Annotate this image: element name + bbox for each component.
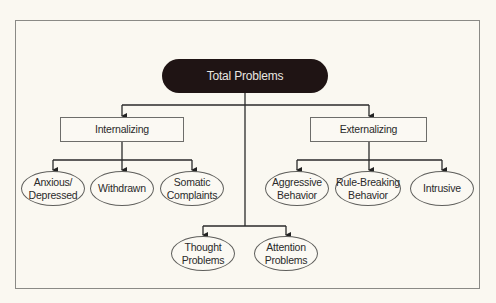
node-label: Internalizing xyxy=(95,123,149,136)
node-intrusive: Intrusive xyxy=(410,171,474,206)
label-line-2: Behavior xyxy=(348,189,388,201)
node-anxious-depressed: Anxious/ Depressed xyxy=(21,171,85,206)
label-line-2: Problems xyxy=(182,254,225,266)
node-label: Intrusive xyxy=(423,182,461,195)
label-line-1: Rule-Breaking xyxy=(336,176,400,188)
node-label: Anxious/ Depressed xyxy=(29,176,78,201)
label-line-1: Aggressive xyxy=(272,176,322,188)
node-label: Rule-Breaking Behavior xyxy=(336,176,400,201)
label-line-1: Attention xyxy=(266,241,306,253)
node-label: Thought Problems xyxy=(182,241,225,266)
node-label: Attention Problems xyxy=(265,241,308,266)
node-rule-breaking-behavior: Rule-Breaking Behavior xyxy=(335,171,401,206)
node-label: Somatic Complaints xyxy=(167,176,218,201)
node-label: Externalizing xyxy=(340,123,398,136)
label-line-1: Somatic xyxy=(174,176,211,188)
label-line-2: Behavior xyxy=(277,189,317,201)
label-line-2: Depressed xyxy=(29,189,78,201)
label-line-2: Problems xyxy=(265,254,308,266)
node-withdrawn: Withdrawn xyxy=(90,171,154,206)
node-attention-problems: Attention Problems xyxy=(254,236,318,271)
node-somatic-complaints: Somatic Complaints xyxy=(160,171,224,206)
label-line-1: Anxious/ xyxy=(34,176,73,188)
node-label: Total Problems xyxy=(207,70,284,83)
node-label: Aggressive Behavior xyxy=(272,176,322,201)
label-line-1: Thought xyxy=(184,241,221,253)
label-line-2: Complaints xyxy=(167,189,218,201)
node-externalizing: Externalizing xyxy=(310,117,427,142)
node-aggressive-behavior: Aggressive Behavior xyxy=(265,171,329,206)
node-label: Withdrawn xyxy=(98,182,146,195)
node-internalizing: Internalizing xyxy=(60,117,184,142)
node-total-problems: Total Problems xyxy=(162,59,328,93)
node-thought-problems: Thought Problems xyxy=(171,236,235,271)
connector-lines xyxy=(0,0,496,303)
